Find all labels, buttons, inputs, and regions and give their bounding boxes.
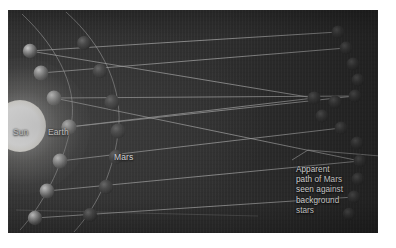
apparent-path-caption: Apparent path of Mars seen against backg… (296, 165, 370, 216)
caption-line-2: path of Mars (296, 175, 370, 185)
figure-canvas: Sun Earth Mars Apparent path of Mars see… (0, 0, 396, 248)
caption-line-3: seen against (296, 185, 370, 195)
label-earth: Earth (48, 128, 69, 137)
caption-line-1: Apparent (296, 165, 370, 175)
label-mars: Mars (114, 153, 133, 162)
caption-line-4: background (296, 196, 370, 206)
space-scene-panel: Sun Earth Mars Apparent path of Mars see… (8, 10, 378, 233)
caption-line-5: stars (296, 206, 370, 216)
lower-guide-line (16, 210, 258, 216)
label-sun: Sun (13, 128, 28, 137)
